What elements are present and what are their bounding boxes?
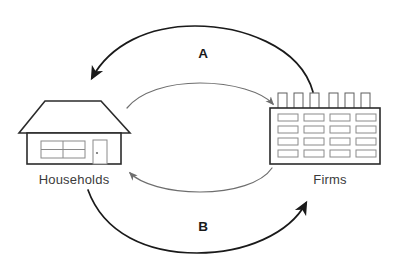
factory-window	[278, 114, 298, 121]
factory-window	[330, 150, 350, 157]
factory-window	[304, 150, 324, 157]
flow-arrow-inner-bottom[interactable]	[130, 168, 272, 192]
factory-chimney	[329, 93, 338, 109]
factory-chimney	[361, 93, 370, 109]
factory-window	[330, 126, 350, 133]
factory-icon	[270, 93, 380, 164]
node-households[interactable]: Households	[19, 101, 130, 187]
factory-chimney	[345, 93, 354, 109]
households-label: Households	[39, 172, 110, 187]
factory-window	[304, 138, 324, 145]
factory-window	[356, 150, 376, 157]
diagram-canvas: Households	[0, 0, 400, 279]
flow-b-label: B	[198, 219, 208, 234]
firms-label: Firms	[313, 172, 347, 187]
factory-window	[278, 126, 298, 133]
factory-chimney	[310, 93, 319, 109]
node-firms[interactable]: Firms	[270, 93, 380, 187]
factory-window	[330, 138, 350, 145]
flow-arrow-b[interactable]	[88, 190, 306, 253]
factory-window	[278, 150, 298, 157]
house-door	[93, 140, 107, 164]
flow-arrow-inner-top[interactable]	[127, 83, 273, 108]
factory-chimney	[278, 93, 287, 109]
factory-window	[304, 114, 324, 121]
factory-window	[304, 126, 324, 133]
flow-a-label: A	[198, 46, 208, 61]
factory-window	[278, 138, 298, 145]
circular-flow-diagram: Households	[0, 0, 400, 279]
factory-window	[356, 126, 376, 133]
factory-chimney	[294, 93, 303, 109]
house-icon	[19, 101, 130, 164]
factory-window	[356, 138, 376, 145]
house-roof	[19, 101, 130, 133]
factory-window	[356, 114, 376, 121]
house-door-knob	[96, 152, 98, 154]
factory-window	[330, 114, 350, 121]
